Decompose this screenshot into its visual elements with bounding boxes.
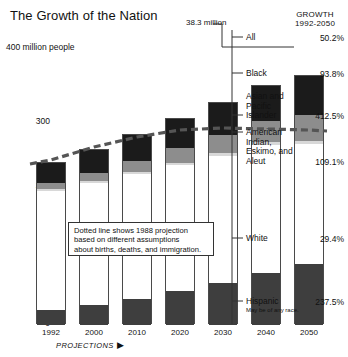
legend-leader-marks xyxy=(0,0,348,357)
chart-figure: The Growth of the Nation 400 million peo… xyxy=(0,0,348,357)
